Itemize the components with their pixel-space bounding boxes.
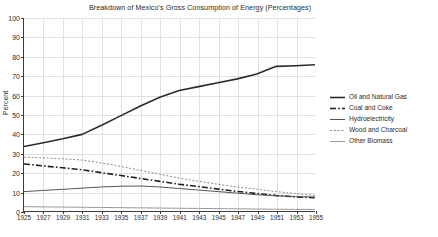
legend-label: Hydroelectricity [349, 116, 394, 123]
x-axis-tick-label: 1925 [17, 215, 31, 221]
y-axis-tick-label: 50 [12, 112, 20, 119]
x-axis-tick-label: 1935 [114, 215, 128, 221]
y-axis-tick-label: 80 [12, 53, 20, 60]
x-axis-tick-mark [102, 211, 103, 214]
x-axis-tick-mark [316, 211, 317, 214]
legend-swatch-icon [330, 137, 345, 146]
legend-item[interactable]: Oil and Natural Gas [330, 92, 436, 103]
x-axis-tick-label: 1927 [36, 215, 50, 221]
y-axis-tick-label: 30 [12, 150, 20, 157]
y-axis-label: Percent [2, 91, 9, 115]
series-line [24, 157, 315, 195]
y-axis-tick-label: 100 [8, 15, 20, 22]
y-axis-tick-mark [21, 173, 24, 174]
x-axis-tick-label: 1943 [192, 215, 206, 221]
y-axis-tick-label: 10 [12, 189, 20, 196]
x-axis-tick-mark [199, 211, 200, 214]
legend-item[interactable]: Wood and Charcoal [330, 125, 436, 136]
x-axis-tick-label: 1945 [212, 215, 226, 221]
legend-item[interactable]: Coal and Coke [330, 103, 436, 114]
y-axis-tick-mark [21, 134, 24, 135]
x-axis-tick-mark [277, 211, 278, 214]
x-axis-tick-mark [121, 211, 122, 214]
x-axis-tick-label: 1939 [153, 215, 167, 221]
x-axis-tick-label: 1941 [173, 215, 187, 221]
y-axis-tick-mark [21, 76, 24, 77]
x-axis-tick-mark [160, 211, 161, 214]
legend-item[interactable]: Other Biomass [330, 136, 436, 147]
chart-title: Breakdown of Mexico's Gross Consumption … [60, 3, 340, 12]
y-axis-tick-label: 20 [12, 170, 20, 177]
series-line [24, 164, 315, 198]
legend-label: Wood and Charcoal [349, 127, 407, 134]
legend-label: Other Biomass [349, 138, 393, 145]
series-line [24, 65, 315, 147]
x-axis-tick-label: 1951 [270, 215, 284, 221]
x-axis-tick-mark [180, 211, 181, 214]
legend-item[interactable]: Hydroelectricity [330, 114, 436, 125]
series-lines [24, 18, 315, 211]
chart-legend: Oil and Natural GasCoal and CokeHydroele… [330, 92, 436, 147]
y-axis-tick-mark [21, 96, 24, 97]
y-axis-tick-mark [21, 37, 24, 38]
legend-label: Oil and Natural Gas [349, 94, 407, 101]
legend-label: Coal and Coke [349, 105, 393, 112]
y-axis-tick-label: 60 [12, 92, 20, 99]
x-axis-tick-mark [238, 211, 239, 214]
y-axis-tick-mark [21, 154, 24, 155]
x-axis-tick-label: 1929 [56, 215, 70, 221]
x-axis-tick-mark [63, 211, 64, 214]
x-axis-tick-label: 1931 [75, 215, 89, 221]
x-axis-tick-mark [141, 211, 142, 214]
x-axis-tick-label: 1955 [309, 215, 323, 221]
chart-figure: Breakdown of Mexico's Gross Consumption … [0, 0, 438, 237]
y-axis-tick-mark [21, 115, 24, 116]
plot-area: 0102030405060708090100192519271929193119… [23, 18, 315, 212]
y-axis-tick-label: 40 [12, 131, 20, 138]
x-axis-tick-label: 1953 [290, 215, 304, 221]
x-axis-tick-label: 1949 [251, 215, 265, 221]
x-axis-tick-mark [219, 211, 220, 214]
x-axis-tick-mark [43, 211, 44, 214]
legend-swatch-icon [330, 126, 345, 135]
x-axis-tick-mark [24, 211, 25, 214]
x-axis-tick-mark [82, 211, 83, 214]
legend-swatch-icon [330, 115, 345, 124]
legend-swatch-icon [330, 104, 345, 113]
y-axis-tick-label: 70 [12, 73, 20, 80]
x-axis-tick-mark [297, 211, 298, 214]
y-axis-tick-mark [21, 193, 24, 194]
series-line [24, 207, 315, 210]
y-axis-tick-mark [21, 57, 24, 58]
y-axis-tick-mark [21, 18, 24, 19]
x-axis-tick-label: 1937 [134, 215, 148, 221]
x-axis-tick-label: 1933 [95, 215, 109, 221]
x-axis-tick-label: 1947 [231, 215, 245, 221]
y-axis-tick-label: 90 [12, 34, 20, 41]
x-axis-tick-mark [258, 211, 259, 214]
legend-swatch-icon [330, 93, 345, 102]
